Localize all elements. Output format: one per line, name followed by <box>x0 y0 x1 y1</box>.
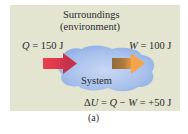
delta-symbol: Δ <box>84 97 91 108</box>
work-label: W = 100 J <box>129 40 171 52</box>
energy-equation: ΔU = Q − W = +50 J <box>84 97 171 109</box>
eq-result: = +50 J <box>137 97 171 108</box>
eq-var-q: Q <box>110 97 118 108</box>
eq-minus: − <box>117 97 128 108</box>
heat-label: Q = 150 J <box>22 40 63 52</box>
heat-value: = 150 J <box>30 40 64 51</box>
heat-var: Q <box>22 40 30 51</box>
system-label: System <box>81 75 112 87</box>
eq-var-w: W <box>128 97 137 108</box>
figure-caption: (a) <box>88 112 99 124</box>
surroundings-sublabel: (environment) <box>60 21 120 33</box>
work-value: = 100 J <box>138 40 172 51</box>
work-var: W <box>129 40 138 51</box>
surroundings-label: Surroundings <box>63 9 120 21</box>
eq-equals: = <box>98 97 109 108</box>
